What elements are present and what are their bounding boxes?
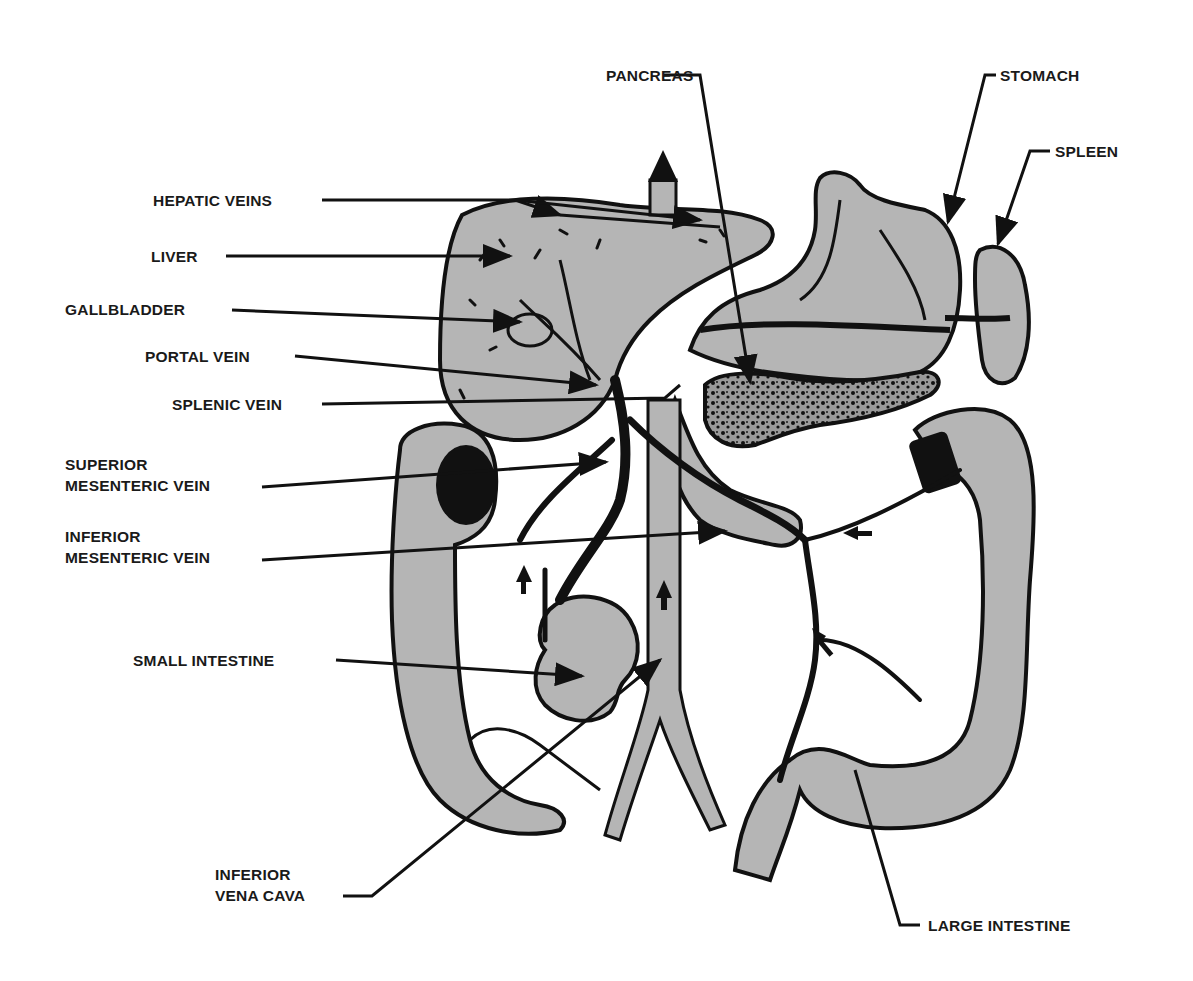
- label-pancreas: PANCREAS: [606, 65, 693, 86]
- label-inferior-vena-cava-line2: VENA CAVA: [215, 885, 305, 906]
- label-small-intestine: SMALL INTESTINE: [133, 650, 274, 671]
- portal-system-diagram: PANCREAS STOMACH SPLEEN HEPATIC VEINS LI…: [0, 0, 1193, 981]
- label-inferior-mesenteric-vein-line2: MESENTERIC VEIN: [65, 547, 210, 568]
- label-inferior-vena-cava-line1: INFERIOR: [215, 864, 305, 885]
- label-splenic-vein: SPLENIC VEIN: [172, 394, 282, 415]
- ascending-colon-shape: [392, 424, 564, 834]
- label-gallbladder: GALLBLADDER: [65, 299, 185, 320]
- label-large-intestine: LARGE INTESTINE: [928, 915, 1071, 936]
- label-inferior-vena-cava: INFERIOR VENA CAVA: [215, 864, 305, 906]
- label-inferior-mesenteric-vein: INFERIOR MESENTERIC VEIN: [65, 526, 210, 568]
- label-superior-mesenteric-vein-line2: MESENTERIC VEIN: [65, 475, 210, 496]
- label-spleen: SPLEEN: [1055, 141, 1118, 162]
- small-intestine-shape: [470, 597, 638, 790]
- label-hepatic-veins: HEPATIC VEINS: [153, 190, 272, 211]
- label-portal-vein: PORTAL VEIN: [145, 346, 250, 367]
- label-liver: LIVER: [151, 246, 198, 267]
- large-intestine-shape: [735, 409, 1034, 880]
- label-stomach: STOMACH: [1000, 65, 1079, 86]
- label-inferior-mesenteric-vein-line1: INFERIOR: [65, 526, 210, 547]
- label-superior-mesenteric-vein-line1: SUPERIOR: [65, 454, 210, 475]
- pancreas-shape: [705, 372, 939, 446]
- label-superior-mesenteric-vein: SUPERIOR MESENTERIC VEIN: [65, 454, 210, 496]
- stomach-shape: [690, 172, 960, 380]
